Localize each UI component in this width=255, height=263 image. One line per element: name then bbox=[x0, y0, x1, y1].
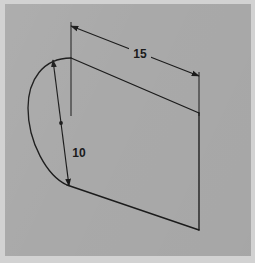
dimension-length: 15 bbox=[71, 22, 199, 116]
drawing-canvas: 15 10 bbox=[5, 4, 251, 256]
top-edge bbox=[71, 58, 199, 113]
arc-center-point bbox=[59, 121, 63, 125]
solid-body bbox=[28, 58, 199, 230]
technical-drawing-svg: 15 10 bbox=[5, 4, 251, 256]
length-dimension-label: 15 bbox=[133, 47, 147, 61]
drawing-stage: 15 10 Extruded half-disc solid with dime… bbox=[0, 0, 255, 263]
bottom-edge bbox=[67, 185, 199, 230]
radius-dimension-label: 10 bbox=[72, 146, 86, 160]
semicircular-arc-face bbox=[28, 58, 71, 185]
